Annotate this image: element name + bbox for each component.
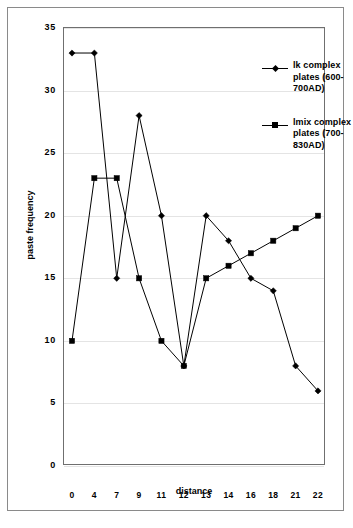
data-point	[92, 176, 97, 181]
chart-legend: lk complex plates (600- 700AD) lmix comp…	[262, 60, 353, 173]
series-line-2	[72, 178, 318, 366]
data-point	[114, 176, 119, 181]
legend-swatch-square-icon	[262, 121, 288, 130]
data-point	[248, 251, 253, 256]
data-point	[248, 275, 254, 281]
legend-label-lk-line2: plates (600-	[293, 72, 353, 84]
data-point	[136, 276, 141, 281]
legend-entry-lmix: lmix complex plates (700- 830AD)	[262, 117, 353, 152]
legend-label-lmix-line1: lmix complex	[293, 117, 353, 129]
data-point	[91, 50, 97, 56]
legend-entry-lk: lk complex plates (600- 700AD)	[262, 60, 353, 95]
data-point	[293, 226, 298, 231]
data-point	[158, 213, 164, 219]
data-point	[69, 338, 74, 343]
legend-label-lmix-line2: plates (700-	[293, 128, 353, 140]
y-tick-label: 5	[16, 398, 56, 407]
figure-frame: paste frequency distance 05101520253035 …	[7, 7, 344, 511]
legend-label-lk-line1: lk complex	[293, 60, 353, 72]
data-point	[181, 363, 186, 368]
legend-label-lmix: lmix complex plates (700- 830AD)	[293, 117, 353, 152]
legend-label-lmix-line3: 830AD)	[293, 140, 353, 152]
gridline	[64, 466, 324, 467]
y-tick-label: 20	[16, 211, 56, 220]
legend-label-lk-line3: 700AD)	[293, 83, 353, 95]
y-axis-title: paste frequency	[25, 165, 35, 285]
line-chart: paste frequency distance 05101520253035 …	[8, 8, 345, 512]
data-point	[270, 288, 276, 294]
data-point	[114, 275, 120, 281]
legend-label-lk: lk complex plates (600- 700AD)	[293, 60, 353, 95]
y-tick-label: 15	[16, 273, 56, 282]
data-point	[204, 276, 209, 281]
data-point	[226, 263, 231, 268]
y-tick-label: 25	[16, 148, 56, 157]
y-tick-label: 0	[16, 461, 56, 470]
data-point	[69, 50, 75, 56]
plot-area: 04791112131416182122 lk complex plates (…	[63, 27, 325, 465]
data-point	[271, 238, 276, 243]
y-tick-label: 35	[16, 23, 56, 32]
y-tick-label: 10	[16, 336, 56, 345]
x-tick-label: 22	[305, 490, 331, 500]
data-point	[159, 338, 164, 343]
data-point	[315, 213, 320, 218]
data-point	[136, 113, 142, 119]
y-tick-label: 30	[16, 86, 56, 95]
legend-swatch-diamond-icon	[262, 64, 288, 73]
